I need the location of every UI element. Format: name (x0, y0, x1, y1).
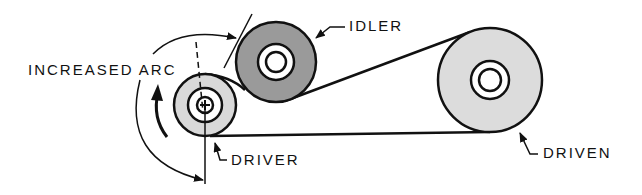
driven-label: DRIVEN (543, 144, 612, 161)
increased-arc-upper-arrow (153, 34, 236, 54)
driven-leader (520, 133, 538, 154)
driver-label: DRIVER (231, 151, 300, 168)
driven-pulley (438, 28, 542, 132)
idler-leader (316, 27, 345, 38)
idler-label: IDLER (349, 17, 403, 34)
rotation-arrowhead-icon (151, 84, 163, 101)
diagram-canvas (0, 0, 642, 195)
increased-arc-label: INCREASED ARC (28, 61, 177, 78)
belt-drive-diagram: INCREASED ARC IDLER DRIVER DRIVEN (0, 0, 642, 195)
driver-leader (215, 143, 227, 160)
idler-pulley (236, 22, 316, 102)
